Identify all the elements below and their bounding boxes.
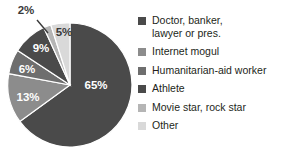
slice-value-label-internet-mogul: 13% xyxy=(16,91,39,103)
slice-value-label-movie-star: 2% xyxy=(18,4,35,16)
legend-item-other[interactable]: Other xyxy=(138,119,283,132)
pie-chart-figure: 65% 13% 6% 9% 2% 5% Doctor, banker, lawy… xyxy=(0,0,283,157)
legend-swatch-icon xyxy=(138,48,146,56)
legend-item-athlete[interactable]: Athlete xyxy=(138,82,283,95)
legend-swatch-icon xyxy=(138,122,146,130)
slice-value-label-doctor: 65% xyxy=(84,79,107,91)
slice-value-label-humanitarian: 6% xyxy=(19,63,36,75)
slice-value-label-other: 5% xyxy=(56,26,73,38)
legend-item-label: Internet mogul xyxy=(152,45,219,58)
legend-item-doctor-banker-lawyer[interactable]: Doctor, banker, lawyer or pres. xyxy=(138,14,283,39)
legend-item-label: Other xyxy=(152,119,178,132)
legend-item-label: Doctor, banker, lawyer or pres. xyxy=(152,14,223,39)
legend-item-movie-star-rock-star[interactable]: Movie star, rock star xyxy=(138,101,283,114)
legend-item-label: Humanitarian-aid worker xyxy=(152,64,266,77)
legend: Doctor, banker, lawyer or pres. Internet… xyxy=(138,14,283,138)
legend-item-label: Movie star, rock star xyxy=(152,101,246,114)
legend-swatch-icon xyxy=(138,104,146,112)
pie-svg: 65% 13% 6% 9% 2% 5% xyxy=(0,0,141,157)
legend-item-humanitarian-aid-worker[interactable]: Humanitarian-aid worker xyxy=(138,64,283,77)
slice-value-label-athlete: 9% xyxy=(33,42,50,54)
legend-swatch-icon xyxy=(138,67,146,75)
legend-item-internet-mogul[interactable]: Internet mogul xyxy=(138,45,283,58)
legend-swatch-icon xyxy=(138,17,146,25)
legend-item-label: Athlete xyxy=(152,82,185,95)
pie-chart-plot: 65% 13% 6% 9% 2% 5% xyxy=(0,0,141,157)
legend-swatch-icon xyxy=(138,85,146,93)
